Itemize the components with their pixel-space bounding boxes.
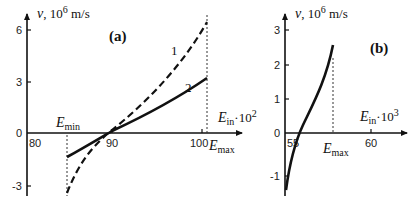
ytick-b-3: 3	[274, 24, 280, 36]
emin-label: Emin	[55, 115, 80, 132]
panel-b: 3 2 1 0 -1 55 60 v, 106 m/s (b) Emax Ein…	[270, 4, 407, 196]
xlabel-a: Ein·102	[217, 108, 257, 127]
ylabel-a: v, 106 m/s	[37, 4, 90, 21]
figure: 6 3 0 -3 80 90 100 1 2 v, 106 m/s (a) Em…	[0, 0, 418, 205]
ytick-a-m3: -3	[12, 180, 22, 192]
xtick-a-100: 100	[190, 137, 208, 149]
ytick-a-0: 0	[16, 127, 22, 139]
curve-2-label: 2	[185, 80, 192, 95]
panel-a: 6 3 0 -3 80 90 100 1 2 v, 106 m/s (a) Em…	[12, 4, 257, 196]
ytick-b-2: 2	[274, 59, 280, 71]
ytick-a-6: 6	[16, 24, 22, 36]
xlabel-b: Ein·103	[359, 107, 399, 126]
ytick-a-3: 3	[16, 76, 22, 88]
panel-label-b: (b)	[370, 40, 388, 57]
ytick-b-0: 0	[274, 127, 280, 139]
curve-1-label: 1	[171, 43, 178, 58]
curve-1	[67, 22, 207, 193]
ytick-b-1: 1	[274, 93, 280, 105]
svg-text:v, 106 m/s: v, 106 m/s	[37, 4, 90, 21]
xtick-a-90: 90	[106, 137, 118, 149]
ylabel-b: v, 106 m/s	[295, 4, 348, 21]
curve-b	[286, 45, 333, 190]
xtick-a-80: 80	[29, 137, 41, 149]
ytick-b-m1: -1	[270, 170, 280, 182]
emax-label-b: Emax	[322, 141, 349, 158]
panel-label-a: (a)	[109, 28, 127, 45]
xtick-b-60: 60	[365, 137, 377, 149]
emax-label-a: Emax	[208, 138, 235, 155]
